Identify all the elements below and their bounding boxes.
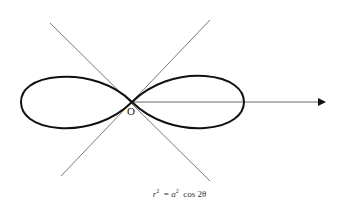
origin-label: O xyxy=(127,105,135,117)
lemniscate-diagram xyxy=(0,0,343,212)
equation-lhs-exp: 2 xyxy=(156,188,159,194)
equation-equals: = xyxy=(164,189,169,199)
equation-label: r2 = a2 cos 2θ xyxy=(0,188,343,199)
equation-rhs-func: cos 2θ xyxy=(183,189,206,199)
arrowhead-icon xyxy=(318,98,326,106)
lemniscate-left-lobe xyxy=(21,77,132,129)
equation-rhs-exp: 2 xyxy=(176,188,179,194)
